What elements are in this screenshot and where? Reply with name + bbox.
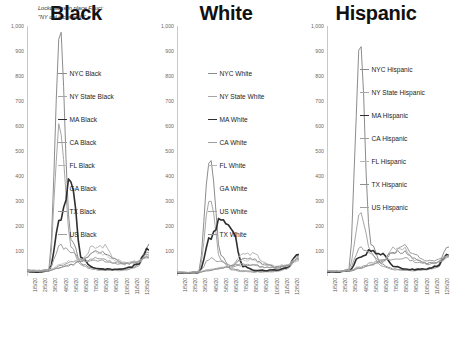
legend-item[interactable]: MA Black [58, 108, 114, 131]
x-tick-label: 2/5/20 [192, 278, 198, 292]
legend-item[interactable]: CA Black [58, 131, 114, 154]
y-tick-label: 600 [15, 123, 24, 129]
legend-item[interactable]: US Black [58, 223, 114, 246]
y-tick-label: 500 [315, 148, 324, 154]
x-tick-label: 11/5/20 [284, 278, 290, 294]
legend-line-marker-icon [208, 211, 217, 212]
legend-item[interactable]: TX White [208, 223, 264, 246]
legend-item-label: NY State White [220, 93, 265, 100]
legend-item[interactable]: TX Hispanic [360, 173, 425, 196]
legend-line-marker-icon [208, 96, 217, 97]
legend-item-label: MA Black [70, 116, 97, 123]
legend-item[interactable]: TX Black [58, 200, 114, 223]
legend-line-marker-icon [360, 207, 369, 208]
y-tick-label: 100 [165, 248, 174, 254]
legend-item-label: CA White [220, 139, 247, 146]
legend-line-marker-icon [58, 73, 67, 74]
legend-item[interactable]: GA White [208, 177, 264, 200]
y-tick-label: 1,000 [161, 23, 174, 29]
x-tick-label: 4/5/20 [63, 278, 69, 292]
legend-item-label: NY State Black [70, 93, 114, 100]
legend-line-marker-icon [208, 234, 217, 235]
legend-item[interactable]: GA Black [58, 177, 114, 200]
y-tick-label: 700 [315, 98, 324, 104]
y-tick-label: 100 [315, 248, 324, 254]
legend-item-label: MA White [220, 116, 248, 123]
x-tick-label: 10/5/20 [274, 278, 280, 295]
y-tick-label: 600 [315, 123, 324, 129]
legend-item[interactable]: NY State Hispanic [360, 81, 425, 104]
legend-line-marker-icon [58, 119, 67, 120]
legend-line-marker-icon [58, 165, 67, 166]
legend-line-marker-icon [58, 211, 67, 212]
x-tick-label: 8/5/20 [103, 278, 109, 292]
x-tick-label: 8/5/20 [403, 278, 409, 292]
x-axis-black: 1/5/202/5/203/5/204/5/205/5/206/5/207/5/… [27, 276, 149, 322]
legend-item[interactable]: MA Hispanic [360, 104, 425, 127]
x-tick-label: 9/5/20 [113, 278, 119, 292]
legend-item[interactable]: US Hispanic [360, 196, 425, 219]
y-tick-label: 800 [165, 73, 174, 79]
legend-line-marker-icon [360, 138, 369, 139]
legend-item[interactable]: NY State White [208, 85, 264, 108]
x-tick-label: 2/5/20 [342, 278, 348, 292]
y-tick-label: 900 [315, 48, 324, 54]
x-tick-label: 12/5/20 [144, 278, 150, 295]
x-tick-label: 5/5/20 [223, 278, 229, 292]
y-tick-label: 900 [165, 48, 174, 54]
legend-item-label: TX White [220, 231, 247, 238]
y-tick-label: 400 [15, 173, 24, 179]
x-tick-label: 3/5/20 [352, 278, 358, 292]
legend-item[interactable]: FL Black [58, 154, 114, 177]
legend-item-label: TX Hispanic [372, 181, 408, 188]
legend-line-marker-icon [360, 69, 369, 70]
panel-title-hispanic: Hispanic [300, 2, 452, 24]
legend-item[interactable]: NYC White [208, 62, 264, 85]
y-axis-white: 1,000900800700600500400300200100 [150, 26, 176, 276]
legend-item[interactable]: NYC Hispanic [360, 58, 425, 81]
legend-item-label: FL White [220, 162, 246, 169]
y-tick-label: 200 [15, 223, 24, 229]
legend-item[interactable]: MA White [208, 108, 264, 131]
legend-item[interactable]: FL White [208, 154, 264, 177]
y-tick-label: 100 [15, 248, 24, 254]
legend-item-label: FL Black [70, 162, 95, 169]
legend-item-label: US Black [70, 231, 97, 238]
legend-item[interactable]: NY State Black [58, 85, 114, 108]
y-tick-label: 300 [165, 198, 174, 204]
legend-item-label: MA Hispanic [372, 112, 409, 119]
chart-panel-white: White 1,000900800700600500400300200100 1… [150, 0, 302, 340]
y-tick-label: 1,000 [311, 23, 324, 29]
legend-item[interactable]: CA White [208, 131, 264, 154]
legend-item-label: NY State Hispanic [372, 89, 425, 96]
y-tick-label: 500 [15, 148, 24, 154]
legend-item-label: CA Black [70, 139, 97, 146]
x-tick-label: 7/5/20 [93, 278, 99, 292]
legend-item[interactable]: CA Hispanic [360, 127, 425, 150]
x-tick-label: 9/5/20 [413, 278, 419, 292]
legend-item-label: GA Black [70, 185, 97, 192]
x-tick-label: 5/5/20 [73, 278, 79, 292]
x-tick-label: 5/5/20 [373, 278, 379, 292]
panel-title-white: White [150, 2, 302, 24]
legend-line-marker-icon [360, 161, 369, 162]
y-tick-label: 400 [315, 173, 324, 179]
legend-item-label: NYC Hispanic [372, 66, 413, 73]
legend-item-label: NYC Black [70, 70, 102, 77]
x-tick-label: 1/5/20 [332, 278, 338, 292]
x-tick-label: 12/5/20 [294, 278, 300, 295]
y-tick-label: 800 [315, 73, 324, 79]
x-tick-label: 4/5/20 [363, 278, 369, 292]
legend-item[interactable]: US White [208, 200, 264, 223]
x-tick-label: 9/5/20 [263, 278, 269, 292]
x-tick-label: 10/5/20 [424, 278, 430, 295]
x-tick-label: 1/5/20 [182, 278, 188, 292]
legend-item-label: FL Hispanic [372, 158, 407, 165]
legend-line-marker-icon [58, 142, 67, 143]
legend-item[interactable]: NYC Black [58, 62, 114, 85]
legend-item[interactable]: FL Hispanic [360, 150, 425, 173]
legend-item-label: GA White [220, 185, 248, 192]
lockdown-annotation: Lockdowns in place Fauci: "NY did it cor… [38, 4, 142, 22]
x-tick-label: 6/5/20 [383, 278, 389, 292]
x-axis-hispanic: 1/5/202/5/203/5/204/5/205/5/206/5/207/5/… [327, 276, 449, 322]
